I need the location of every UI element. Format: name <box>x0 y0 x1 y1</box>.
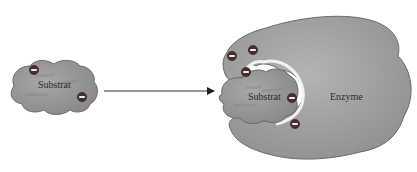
negative-charge-icon <box>241 67 250 76</box>
negative-charge-icon <box>248 45 257 54</box>
enzyme-complex: Substrat Enzyme <box>219 16 411 159</box>
negative-charge-icon <box>227 51 236 60</box>
negative-charge-icon <box>287 93 296 102</box>
enzyme-label: Enzyme <box>330 91 363 102</box>
negative-charge-icon <box>77 92 86 101</box>
negative-charge-icon <box>290 119 299 128</box>
negative-charge-icon <box>29 65 38 74</box>
enzyme-substrate-diagram: Substrat Substrat Enzyme <box>0 0 417 172</box>
free-substrate: Substrat <box>11 60 97 114</box>
substrate-label-left: Substrat <box>38 79 71 90</box>
substrate-label-right: Substrat <box>248 91 281 102</box>
